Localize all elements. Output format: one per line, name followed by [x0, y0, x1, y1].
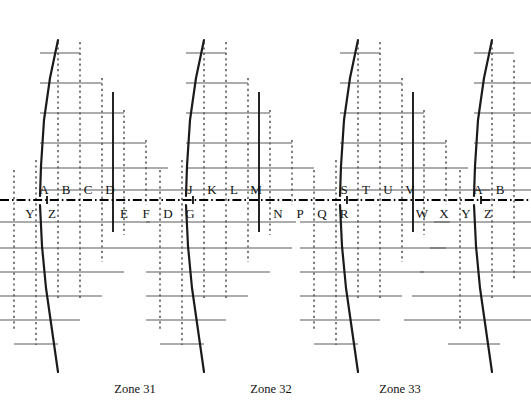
zone-caption: Zone 33: [379, 382, 420, 397]
axis-label-below: Z: [479, 207, 497, 220]
axis-label-below: X: [435, 207, 453, 220]
axis-label-below: Q: [313, 207, 331, 220]
axis-label-below: N: [269, 207, 287, 220]
axis-label-below: R: [335, 207, 353, 220]
axis-label-above: J: [181, 183, 199, 196]
axis-label-above: L: [225, 183, 243, 196]
boundary-curve-above: [40, 40, 58, 196]
axis-label-above: B: [491, 183, 509, 196]
axis-label-below: G: [181, 207, 199, 220]
axis-label-above: D: [101, 183, 119, 196]
zone-caption: Zone 31: [114, 382, 155, 397]
zone-caption: Zone 32: [250, 382, 291, 397]
axis-label-below: Y: [21, 207, 39, 220]
axis-label-above: U: [379, 183, 397, 196]
boundary-curve-above: [474, 40, 492, 196]
axis-label-below: F: [137, 207, 155, 220]
axis-label-below: Y: [457, 207, 475, 220]
diagram-canvas: ABCDJKLMSTUVABYZEFDGNPQRWXYZZone 31Zone …: [0, 0, 531, 417]
axis-label-above: T: [357, 183, 375, 196]
axis-label-below: P: [291, 207, 309, 220]
axis-label-below: E: [115, 207, 133, 220]
boundary-curve-below: [474, 205, 492, 372]
boundary-curve-above: [186, 40, 204, 196]
boundary-curve-below: [340, 205, 358, 372]
axis-label-above: A: [469, 183, 487, 196]
axis-label-above: M: [247, 183, 265, 196]
boundary-curve-below: [40, 205, 58, 372]
axis-label-below: W: [413, 207, 431, 220]
boundary-curve-above: [340, 40, 358, 196]
axis-label-below: D: [159, 207, 177, 220]
boundary-curve-below: [186, 205, 204, 372]
axis-label-above: V: [401, 183, 419, 196]
axis-label-above: A: [35, 183, 53, 196]
axis-label-above: C: [79, 183, 97, 196]
axis-label-below: Z: [43, 207, 61, 220]
axis-label-above: B: [57, 183, 75, 196]
axis-label-above: S: [335, 183, 353, 196]
axis-label-above: K: [203, 183, 221, 196]
